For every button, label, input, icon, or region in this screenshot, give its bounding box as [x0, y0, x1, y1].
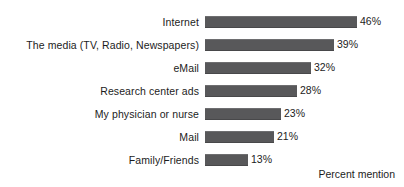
bar-mail — [205, 131, 274, 143]
bar-row: The media (TV, Radio, Newspapers) 39% — [0, 35, 404, 55]
category-label: eMail — [0, 62, 199, 74]
bar-fill — [205, 131, 274, 143]
bar-value-label: 39% — [337, 38, 358, 51]
bar-row: My physician or nurse 23% — [0, 104, 404, 124]
bar-family-friends — [205, 154, 248, 166]
bar-row: Research center ads 28% — [0, 81, 404, 101]
bar-fill — [205, 39, 334, 51]
bar-row: Internet 46% — [0, 12, 404, 32]
category-label: My physician or nurse — [0, 108, 199, 120]
bar-fill — [205, 154, 248, 166]
bar-fill — [205, 108, 281, 120]
bar-value-label: 46% — [360, 15, 381, 28]
bar-the-media — [205, 39, 334, 51]
x-axis-caption: Percent mention — [319, 168, 395, 180]
bar-fill — [205, 62, 311, 74]
bar-my-physician-or-nurse — [205, 108, 281, 120]
bar-value-label: 28% — [300, 84, 321, 97]
bar-research-center-ads — [205, 85, 297, 97]
bar-chart: Internet 46% The media (TV, Radio, Newsp… — [0, 0, 404, 187]
category-label: Internet — [0, 16, 199, 28]
plot-area: Internet 46% The media (TV, Radio, Newsp… — [0, 0, 404, 187]
category-label: Mail — [0, 131, 199, 143]
bar-row: Mail 21% — [0, 127, 404, 147]
bar-row: eMail 32% — [0, 58, 404, 78]
category-label: Family/Friends — [0, 154, 199, 166]
bar-value-label: 21% — [277, 130, 298, 143]
bar-value-label: 13% — [251, 153, 272, 166]
bar-value-label: 32% — [314, 61, 335, 74]
bar-internet — [205, 16, 357, 28]
bar-fill — [205, 85, 297, 97]
bar-fill — [205, 16, 357, 28]
category-label: Research center ads — [0, 85, 199, 97]
bar-row: Family/Friends 13% — [0, 150, 404, 170]
category-label: The media (TV, Radio, Newspapers) — [0, 39, 199, 51]
bar-value-label: 23% — [284, 107, 305, 120]
bar-email — [205, 62, 311, 74]
